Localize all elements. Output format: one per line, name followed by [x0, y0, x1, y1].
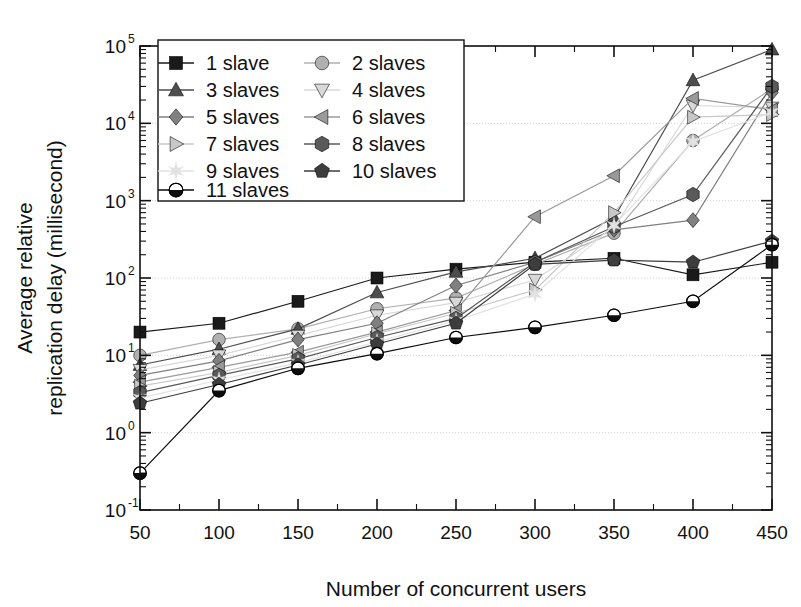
y-tick-label: 10 — [105, 345, 126, 366]
legend-label: 2 slaves — [352, 52, 425, 74]
y-tick-label: 10 — [105, 36, 126, 57]
y-tick-label: 10 — [105, 268, 126, 289]
legend-label: 8 slaves — [352, 133, 425, 155]
y-axis-title-line2: replication delay (millisecond) — [43, 140, 66, 415]
y-tick-exponent: 0 — [128, 419, 135, 433]
chart-canvas: 10-1100101102103104105501001502002503003… — [0, 0, 801, 607]
legend-label: 5 slaves — [206, 106, 279, 128]
x-tick-label: 350 — [598, 522, 630, 543]
y-tick-exponent: 5 — [128, 32, 135, 46]
legend-label: 7 slaves — [206, 133, 279, 155]
legend-label: 6 slaves — [352, 106, 425, 128]
legend-label: 11 slaves — [206, 179, 289, 201]
x-tick-label: 50 — [129, 522, 150, 543]
legend-item-5-slaves[interactable]: 5 slaves — [158, 106, 279, 128]
y-tick-label: 10 — [105, 191, 126, 212]
y-tick-label: 10 — [105, 500, 126, 521]
legend-label: 1 slave — [206, 52, 269, 74]
x-tick-label: 450 — [756, 522, 788, 543]
y-tick-label: 10 — [105, 113, 126, 134]
x-tick-label: 200 — [361, 522, 393, 543]
x-tick-label: 300 — [519, 522, 551, 543]
y-tick-exponent: 4 — [128, 109, 135, 123]
x-tick-label: 150 — [282, 522, 314, 543]
legend: 1 slave2 slaves3 slaves4 slaves5 slaves6… — [158, 40, 464, 201]
legend-item-8-slaves[interactable]: 8 slaves — [304, 133, 425, 155]
legend-label: 4 slaves — [352, 79, 425, 101]
x-tick-label: 250 — [440, 522, 472, 543]
y-tick-exponent: 1 — [128, 341, 135, 355]
legend-label: 3 slaves — [206, 79, 279, 101]
y-tick-label: 10 — [105, 423, 126, 444]
x-axis-title: Number of concurrent users — [326, 577, 586, 600]
chart-figure: 10-1100101102103104105501001502002503003… — [0, 0, 801, 607]
y-tick-exponent: -1 — [128, 496, 139, 510]
x-tick-label: 100 — [203, 522, 235, 543]
y-tick-exponent: 2 — [128, 264, 135, 278]
x-tick-label: 400 — [677, 522, 709, 543]
y-tick-exponent: 3 — [128, 187, 135, 201]
legend-label: 10 slaves — [352, 160, 437, 182]
y-axis-title-line1: Average relative — [13, 202, 36, 353]
